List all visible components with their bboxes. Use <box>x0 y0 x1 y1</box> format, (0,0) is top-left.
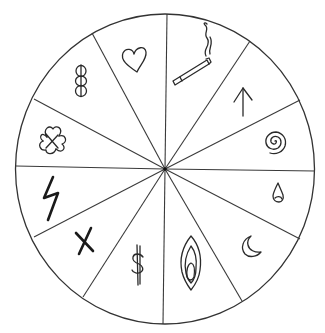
cigarette-icon <box>173 23 211 85</box>
clover-icon <box>40 127 66 154</box>
spiral-icon <box>266 132 286 154</box>
wheel-hub <box>163 167 167 171</box>
heart-icon <box>122 48 146 72</box>
symbol-wheel <box>0 0 325 333</box>
moon-icon <box>243 236 261 256</box>
lightning-icon <box>44 177 58 220</box>
dollar-icon <box>132 245 143 285</box>
stacked-circles-icon <box>76 65 87 97</box>
cross-x-icon <box>76 228 93 254</box>
drop-icon <box>273 183 283 202</box>
arrow-up-icon <box>234 88 252 116</box>
flame-almond-icon <box>181 236 201 290</box>
